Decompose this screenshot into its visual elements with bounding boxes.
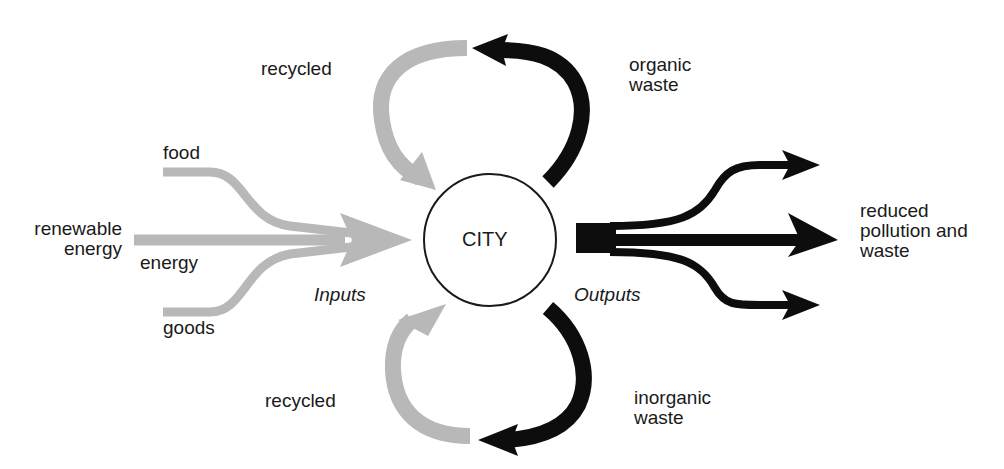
recycled-bottom-arrow: [393, 320, 470, 436]
energy-label: energy: [140, 253, 198, 273]
organic-waste-label: organic waste: [629, 55, 691, 95]
inorganic-waste-label: inorganic waste: [634, 388, 711, 428]
reduced-pollution-label: reduced pollution and waste: [860, 201, 968, 261]
inputs-label: Inputs: [314, 285, 366, 305]
input-arrowhead: [340, 213, 412, 267]
recycled-top-label: recycled: [261, 59, 332, 79]
city-label: CITY: [462, 229, 508, 249]
food-flow: [163, 172, 360, 234]
recycled-bottom-label: recycled: [265, 391, 336, 411]
goods-label: goods: [163, 318, 215, 338]
inorganic-waste-arrow: [508, 308, 584, 440]
food-label: food: [163, 143, 200, 163]
organic-waste-arrow: [500, 50, 582, 182]
renewable-energy-label: renewable energy: [24, 219, 122, 259]
inorganic-waste-arrowhead: [478, 424, 518, 456]
outputs-label: Outputs: [574, 285, 641, 305]
